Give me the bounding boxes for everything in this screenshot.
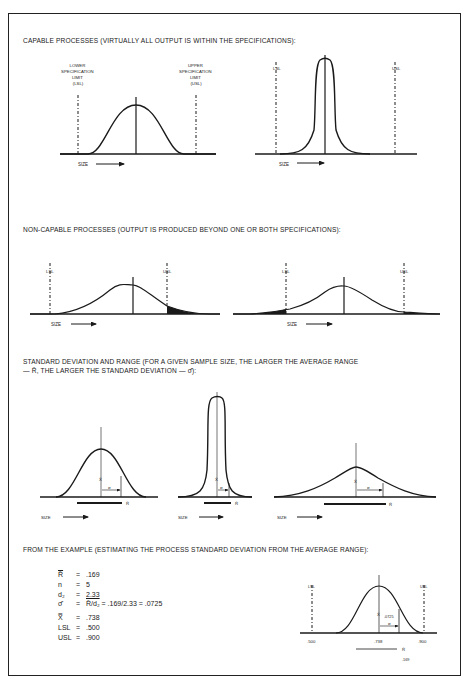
usl-tick-label: .900: [418, 639, 427, 644]
sigma-label: σ: [367, 485, 370, 490]
capable-chart-wide: LOWER SPECIFICATION LIMIT (LSL) UPPER SP…: [60, 63, 216, 167]
example-chart: X̄ .0725 σ LSL USL .500 .738 .900 R̄ .16…: [300, 575, 437, 662]
size-label: SIZE: [178, 515, 188, 520]
lsl-label: LSL: [308, 585, 315, 589]
usl-label: USL: [392, 66, 401, 71]
equation-row: USL=.900: [58, 634, 100, 641]
std-dev-chart-narrow: X̄ σ R̄ SIZE: [178, 392, 252, 520]
size-label: SIZE: [51, 322, 61, 327]
capable-chart-narrow: LSL USL SIZE: [255, 55, 417, 167]
normal-curve: [336, 586, 423, 633]
usl-label: USL: [420, 585, 427, 589]
non-capable-chart-both: LSL USL SIZE: [233, 263, 440, 327]
normal-curve: [233, 286, 440, 314]
normal-curve: [60, 105, 216, 154]
lsl-tick-label: .500: [307, 639, 316, 644]
usl-long-label: UPPER SPECIFICATION LIMIT (USL): [179, 63, 213, 86]
lsl-label: LSL: [273, 66, 281, 71]
size-label: SIZE: [41, 515, 51, 520]
sigma-label: σ: [108, 485, 111, 490]
xbar-label: X̄: [354, 479, 357, 484]
xbar-label: X̄: [215, 477, 218, 482]
lsl-long-label: LOWER SPECIFICATION LIMIT (LSL): [61, 63, 95, 86]
mean-tick-label: .738: [374, 639, 383, 644]
normal-curve: [30, 284, 220, 314]
lsl-label: LSL: [282, 269, 290, 274]
std-dev-chart-wide: X̄ σ R̄ SIZE: [274, 443, 436, 520]
lsl-label: LSL: [46, 269, 54, 274]
xbar-label: X̄: [99, 477, 102, 482]
equation-row: LSL=.500: [58, 624, 100, 631]
equation-row: d₂=2.33: [58, 591, 100, 598]
size-label: SIZE: [78, 162, 88, 167]
std-dev-chart-medium: X̄ σ R̄ SIZE: [40, 427, 158, 520]
rbar-label: R̄: [126, 501, 129, 506]
sigma-label: σ: [388, 621, 391, 626]
usl-label: USL: [163, 269, 172, 274]
rbar-label: R̄: [389, 502, 392, 507]
rbar-label: R̄: [235, 501, 238, 506]
non-capable-chart-upper: LSL USL SIZE: [30, 263, 220, 327]
equation-row: R̄=.169: [58, 571, 100, 578]
equation-row: X̿=.738: [58, 614, 100, 621]
rbar-label: R̄: [402, 647, 405, 652]
equation-row: n=5: [58, 581, 90, 588]
size-label: SIZE: [279, 162, 289, 167]
size-label: SIZE: [287, 322, 297, 327]
sigma-label: σ: [220, 485, 223, 490]
usl-label: USL: [400, 269, 409, 274]
xbar-label: X̄: [377, 612, 380, 617]
rbar-value-label: .169: [402, 658, 409, 662]
size-label: SIZE: [277, 515, 287, 520]
sigma-value-label: .0725: [384, 615, 394, 619]
equation-row: σ̂=R̄/d₂ = .169/2.33 = .0725: [58, 600, 162, 607]
